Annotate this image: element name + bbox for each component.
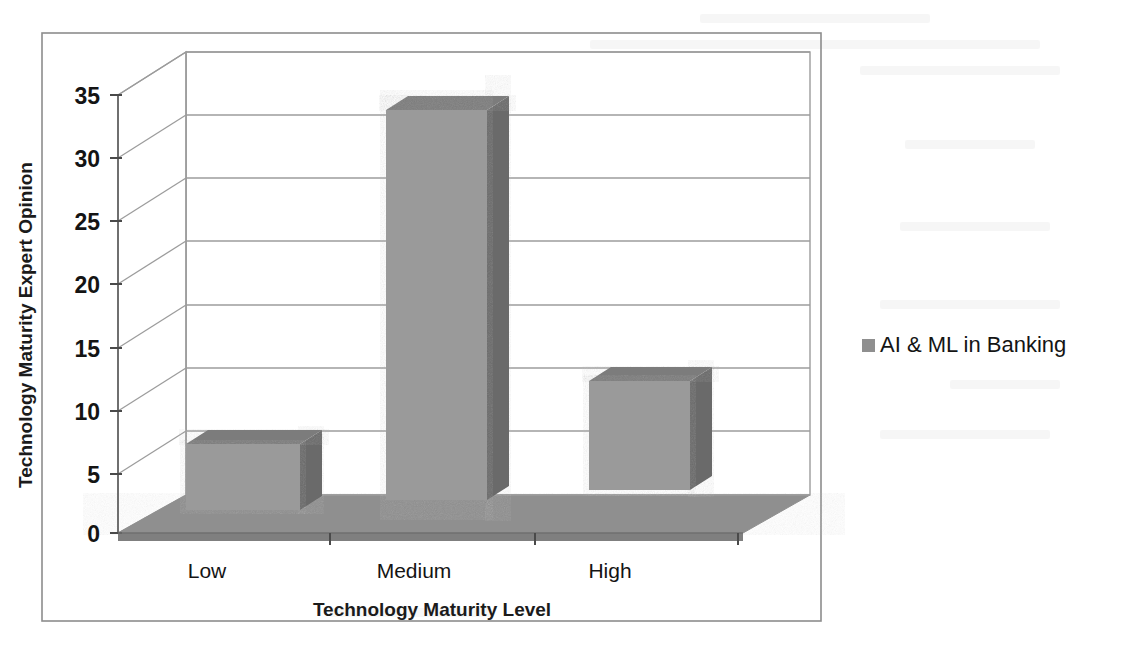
plot-floor-front-edge (118, 533, 743, 541)
chart-figure: 35 30 25 20 15 10 5 0 Low Medium High (0, 0, 1130, 650)
y-tick-label: 25 (74, 209, 100, 235)
legend: AI & ML in Banking (862, 332, 1066, 357)
chart-svg: 35 30 25 20 15 10 5 0 Low Medium High (0, 0, 1130, 650)
legend-marker-square-icon (862, 339, 875, 352)
category-label-low: Low (188, 559, 227, 582)
category-label-medium: Medium (377, 559, 452, 582)
bar-high-side (690, 367, 712, 490)
category-label-high: High (588, 559, 631, 582)
bar-medium[interactable] (386, 96, 509, 500)
y-tick-label: 0 (87, 521, 100, 547)
x-axis-title: Technology Maturity Level (313, 599, 551, 620)
y-tick-label: 35 (74, 83, 100, 109)
bar-low-top (186, 430, 322, 444)
x-axis-category-labels: Low Medium High (188, 559, 632, 582)
y-axis-title: Technology Maturity Expert Opinion (15, 162, 36, 488)
legend-entry-label: AI & ML in Banking (880, 332, 1066, 357)
y-tick-label: 5 (87, 462, 100, 488)
y-axis-tick-labels: 35 30 25 20 15 10 5 0 (74, 83, 100, 547)
bar-low[interactable] (186, 430, 322, 510)
bar-low-side (300, 430, 322, 510)
bar-low-front (186, 444, 300, 510)
bar-high[interactable] (589, 367, 712, 490)
bar-medium-side (487, 96, 509, 500)
bar-medium-front (386, 110, 487, 500)
bar-high-front (589, 381, 690, 490)
y-tick-label: 10 (74, 399, 100, 425)
y-tick-label: 30 (74, 146, 100, 172)
y-tick-label: 20 (74, 272, 100, 298)
plot-left-wall (118, 52, 186, 533)
y-tick-label: 15 (74, 336, 100, 362)
